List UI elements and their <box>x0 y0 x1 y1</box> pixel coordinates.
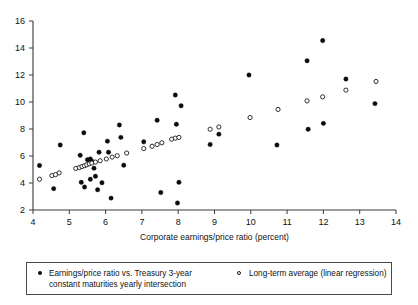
data-point-filled <box>88 177 92 181</box>
y-tick-label: 2 <box>20 205 25 215</box>
data-point-filled <box>106 150 110 154</box>
data-point-open <box>110 155 114 159</box>
data-point-filled <box>122 163 126 167</box>
legend-entry-earnings-price: Earnings/price ratio vs. Treasury 3-year… <box>49 268 239 290</box>
data-point-filled <box>93 174 97 178</box>
data-point-filled <box>275 143 279 147</box>
x-tick-label: 10 <box>246 217 256 227</box>
data-point-filled <box>58 143 62 147</box>
y-tick-label: 8 <box>20 124 25 134</box>
data-point-filled <box>95 188 99 192</box>
data-point-filled <box>82 131 86 135</box>
x-tick-label: 11 <box>282 217 291 227</box>
data-point-open <box>321 95 325 99</box>
data-point-filled <box>79 180 83 184</box>
scatter-plot-svg: 4567891011121314246810121416Corporate ea… <box>0 0 418 250</box>
data-point-filled <box>305 59 309 63</box>
data-point-open <box>374 79 378 83</box>
x-tick-label: 8 <box>176 217 181 227</box>
data-point-open <box>305 99 309 103</box>
data-point-open <box>160 141 164 145</box>
data-point-filled <box>373 101 377 105</box>
data-point-filled <box>179 104 183 108</box>
data-point-filled <box>321 121 325 125</box>
y-tick-label: 12 <box>15 70 25 80</box>
data-point-filled <box>142 140 146 144</box>
data-point-open <box>125 151 129 155</box>
data-point-filled <box>155 118 159 122</box>
data-point-filled <box>217 132 221 136</box>
x-tick-label: 5 <box>67 217 72 227</box>
x-tick-label: 4 <box>30 217 35 227</box>
legend: Earnings/price ratio vs. Treasury 3-year… <box>26 262 392 295</box>
filled-circle-marker-icon <box>38 271 42 275</box>
data-point-open <box>276 107 280 111</box>
data-point-open <box>37 177 41 181</box>
data-point-open <box>208 127 212 131</box>
x-axis-title: Corporate earnings/price ratio (percent) <box>140 232 289 242</box>
data-point-open <box>177 135 181 139</box>
x-tick-label: 6 <box>103 217 108 227</box>
x-tick-label: 7 <box>139 217 144 227</box>
data-point-filled <box>177 180 181 184</box>
y-tick-label: 10 <box>15 97 25 107</box>
data-point-open <box>57 171 61 175</box>
data-point-filled <box>208 142 212 146</box>
x-tick-label: 9 <box>212 217 217 227</box>
data-point-open <box>115 154 119 158</box>
x-tick-label: 13 <box>355 217 365 227</box>
data-point-open <box>344 88 348 92</box>
data-point-open <box>104 157 108 161</box>
data-point-filled <box>117 123 121 127</box>
data-point-open <box>142 146 146 150</box>
data-point-filled <box>247 73 251 77</box>
data-point-filled <box>105 139 109 143</box>
x-tick-label: 12 <box>318 217 328 227</box>
data-point-filled <box>344 77 348 81</box>
data-point-open <box>248 115 252 119</box>
data-point-filled <box>173 93 177 97</box>
data-point-filled <box>78 153 82 157</box>
data-point-open <box>150 144 154 148</box>
data-point-filled <box>97 150 101 154</box>
x-tick-label: 14 <box>391 217 401 227</box>
data-point-filled <box>92 166 96 170</box>
data-point-filled <box>159 190 163 194</box>
data-point-filled <box>109 196 113 200</box>
data-point-open <box>217 125 221 129</box>
data-point-filled <box>119 135 123 139</box>
y-tick-label: 4 <box>20 178 25 188</box>
legend-entry-long-term-average: Long-term average (linear regression) <box>249 268 409 279</box>
data-point-filled <box>306 127 310 131</box>
y-tick-label: 16 <box>15 16 25 26</box>
open-circle-marker-icon <box>237 271 241 275</box>
chart-page: 4567891011121314246810121416Corporate ea… <box>0 0 418 305</box>
data-point-open <box>93 160 97 164</box>
y-tick-label: 6 <box>20 151 25 161</box>
data-point-filled <box>320 38 324 42</box>
data-point-filled <box>175 201 179 205</box>
scatter-plot-area: 4567891011121314246810121416Corporate ea… <box>0 0 418 250</box>
y-tick-label: 14 <box>15 43 25 53</box>
data-point-filled <box>100 181 104 185</box>
data-point-open <box>98 159 102 163</box>
data-point-open <box>155 142 159 146</box>
data-point-filled <box>51 186 55 190</box>
data-points-group <box>37 38 378 205</box>
data-point-filled <box>82 185 86 189</box>
data-point-filled <box>37 163 41 167</box>
data-point-filled <box>174 122 178 126</box>
